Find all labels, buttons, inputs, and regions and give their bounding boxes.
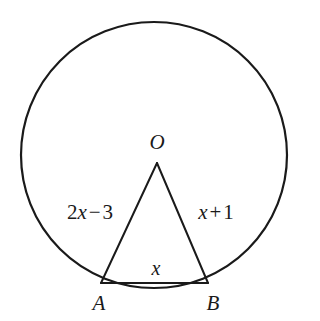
circle-shape xyxy=(21,22,287,288)
label-side-oa: 2x−3 xyxy=(67,202,113,223)
label-side-ob-variable: x xyxy=(198,200,207,224)
label-side-oa-variable: x xyxy=(77,200,86,224)
vertex-label-o: O xyxy=(149,132,164,153)
label-side-oa-constant: 3 xyxy=(103,200,114,224)
vertex-label-a: A xyxy=(93,293,106,314)
label-side-oa-coefficient: 2 xyxy=(67,200,78,224)
label-side-ob-constant: 1 xyxy=(223,200,234,224)
label-side-ab: x xyxy=(152,258,161,278)
label-side-oa-operator: − xyxy=(87,200,103,224)
vertex-label-b: B xyxy=(207,293,220,314)
label-side-ob-operator: + xyxy=(207,200,223,224)
label-side-ob: x+1 xyxy=(198,202,234,223)
label-side-ab-variable: x xyxy=(152,257,161,279)
